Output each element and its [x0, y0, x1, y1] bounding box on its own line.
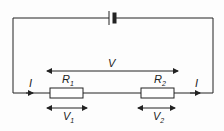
circuit-diagram: I I V R1 R2 V1 V2	[0, 0, 224, 131]
r1-label: R1	[62, 74, 74, 89]
v1-label: V1	[63, 111, 74, 126]
total-voltage-label: V	[108, 58, 115, 69]
v2-sub: 2	[160, 117, 164, 124]
resistor-r2	[141, 88, 174, 98]
r1-sub: 1	[70, 80, 74, 87]
v1-sub: 1	[70, 117, 74, 124]
current-label-left: I	[29, 78, 32, 89]
v2-label: V2	[153, 111, 164, 126]
wire-loop	[13, 18, 109, 93]
resistor-r1	[50, 88, 83, 98]
r2-label: R2	[154, 74, 166, 89]
current-label-right: I	[195, 78, 198, 89]
battery-plate-thick	[113, 13, 116, 23]
r2-main: R	[154, 73, 162, 85]
r2-sub: 2	[162, 80, 166, 87]
r1-main: R	[62, 73, 70, 85]
